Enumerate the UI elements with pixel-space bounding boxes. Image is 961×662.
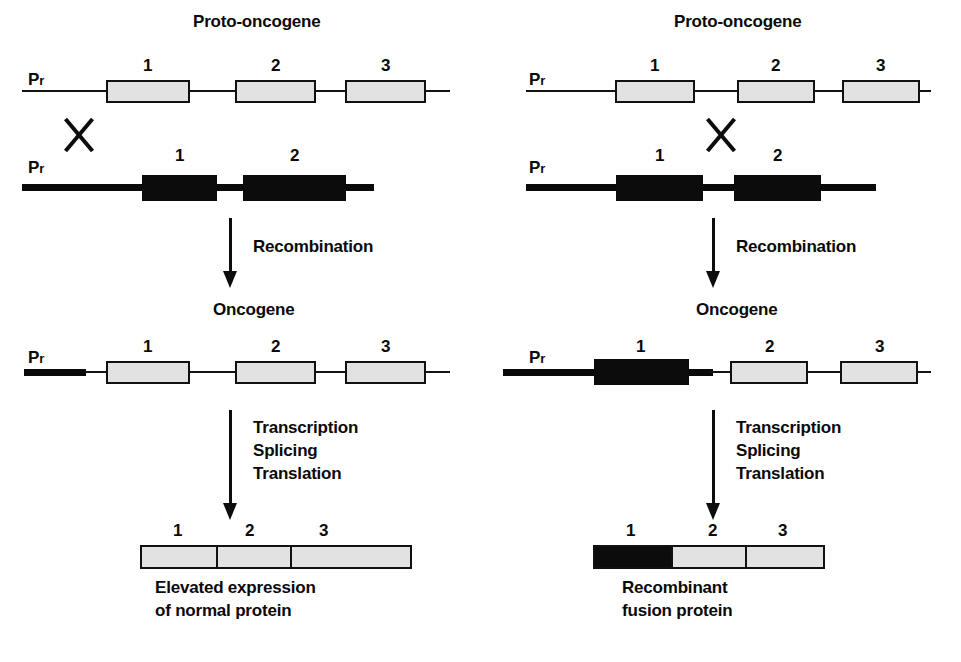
exon-box-2 [235, 80, 316, 103]
protein-segment-number-1: 1 [626, 521, 635, 541]
proto-oncogene-title-left: Proto-oncogene [193, 12, 321, 32]
protein-segment-number-1: 1 [173, 521, 182, 541]
exon-box-3 [345, 361, 426, 384]
exon-number-2: 2 [771, 56, 780, 76]
protein-caption-line-2: fusion protein [622, 601, 733, 621]
viral-exon-1 [142, 175, 217, 201]
process-step-transcription: Transcription [736, 418, 841, 438]
promoter-label: Pr [529, 348, 545, 368]
panel-left-transduction: Proto-oncogene Pr 1 2 3 Pr 1 2 [0, 0, 480, 662]
process-step-translation: Translation [736, 464, 825, 484]
protein-caption-line-2: of normal protein [155, 601, 291, 621]
proto-oncogene-title-right: Proto-oncogene [674, 12, 802, 32]
protein-segment-1 [595, 547, 671, 567]
exon-box-3 [345, 80, 426, 103]
protein-bar [593, 545, 825, 569]
protein-segment-number-2: 2 [245, 521, 254, 541]
protein-segment-3 [745, 547, 823, 567]
promoter-label: Pr [28, 158, 44, 178]
exon-box-3 [842, 80, 920, 103]
exon-number-3: 3 [875, 337, 884, 357]
crossover-x-icon-left [59, 114, 99, 156]
process-step-transcription: Transcription [253, 418, 358, 438]
protein-segment-number-3: 3 [319, 521, 328, 541]
viral-exon-1 [616, 175, 703, 201]
recombination-label-left: Recombination [253, 237, 373, 257]
protein-segment-1 [142, 547, 216, 567]
exon-box-3 [840, 361, 918, 384]
exon-box-2 [235, 361, 316, 384]
viral-promoter-segment [24, 369, 86, 376]
process-step-splicing: Splicing [736, 441, 801, 461]
expression-arrow-left [222, 410, 238, 520]
recombination-label-right: Recombination [736, 237, 856, 257]
exon-number-3: 3 [381, 56, 390, 76]
promoter-label: Pr [529, 70, 545, 90]
exon-box-2 [737, 80, 815, 103]
exon-number-2: 2 [271, 337, 280, 357]
exon-number-3: 3 [876, 56, 885, 76]
exon-number-1: 1 [636, 337, 645, 357]
promoter-label: Pr [28, 348, 44, 368]
viral-exon-2 [243, 175, 346, 201]
exon-number-1: 1 [143, 56, 152, 76]
viral-exon-2 [734, 175, 821, 201]
exon-number-1: 1 [650, 56, 659, 76]
exon-number-3: 3 [381, 337, 390, 357]
protein-segment-2 [671, 547, 745, 567]
protein-segment-number-2: 2 [708, 521, 717, 541]
exon-number-1: 1 [143, 337, 152, 357]
process-step-splicing: Splicing [253, 441, 318, 461]
viral-exon-number-2: 2 [290, 146, 299, 166]
viral-exon-number-2: 2 [773, 146, 782, 166]
oncogene-recombination-diagram: Proto-oncogene Pr 1 2 3 Pr 1 2 [0, 0, 961, 662]
viral-exon-number-1: 1 [175, 146, 184, 166]
viral-exon-number-1: 1 [655, 146, 664, 166]
protein-caption-line-1: Elevated expression [155, 578, 316, 598]
recombination-arrow-right [705, 218, 721, 288]
exon-number-2: 2 [765, 337, 774, 357]
oncogene-title-left: Oncogene [213, 300, 295, 320]
protein-segment-3 [290, 547, 410, 567]
recombination-arrow-left [222, 218, 238, 288]
expression-arrow-right [705, 410, 721, 520]
crossover-x-icon-right [701, 114, 741, 156]
process-step-translation: Translation [253, 464, 342, 484]
panel-right-fusion: Proto-oncogene Pr 1 2 3 Pr 1 2 [481, 0, 961, 662]
promoter-label: Pr [28, 70, 44, 90]
exon-box-1 [106, 361, 190, 384]
protein-bar [140, 545, 412, 569]
protein-segment-number-3: 3 [778, 521, 787, 541]
protein-segment-2 [216, 547, 290, 567]
exon-box-1-viral [594, 359, 689, 385]
exon-box-1 [615, 80, 695, 103]
promoter-label: Pr [529, 158, 545, 178]
exon-box-1 [106, 80, 190, 103]
oncogene-title-right: Oncogene [696, 300, 778, 320]
protein-caption-line-1: Recombinant [622, 578, 727, 598]
exon-box-2 [730, 361, 808, 384]
exon-number-2: 2 [271, 56, 280, 76]
